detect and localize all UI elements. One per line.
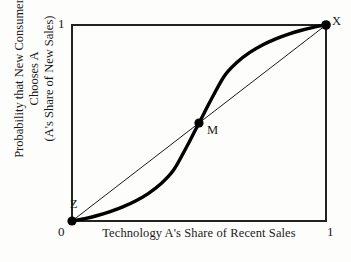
y-axis-title-line-2: (A's Share of New Sales) [42,0,57,174]
y-axis-title: Probability that New Consumer Chooses A … [12,0,57,174]
y-axis-tick-max: 1 [58,17,65,30]
point-marker-m [194,118,203,127]
figure-container: X M Z 1 0 1 Technology A's Share of Rece… [0,0,351,262]
point-label-z: Z [70,198,78,211]
y-axis-title-line-1: Probability that New Consumer Chooses A [12,0,41,158]
point-marker-x [321,20,331,30]
point-label-m: M [207,124,218,137]
point-marker-z [67,216,76,225]
point-label-x: X [332,15,341,28]
x-axis-tick-max: 1 [327,225,334,238]
x-axis-title: Technology A's Share of Recent Sales [72,226,326,241]
y-axis-tick-min: 0 [58,225,65,238]
